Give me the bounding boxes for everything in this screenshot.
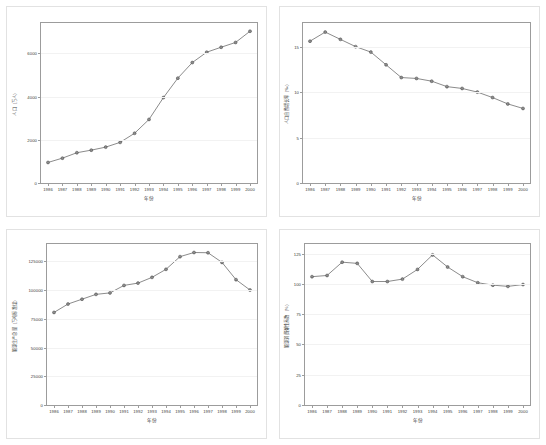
y-tick-mark (44, 376, 47, 377)
x-tick-label: 1987 (322, 409, 332, 414)
x-tick-mark (372, 405, 373, 408)
x-tick-mark (493, 183, 494, 186)
x-tick-mark (432, 183, 433, 186)
x-tick-label: 1997 (202, 187, 212, 192)
data-point-marker (311, 275, 314, 278)
x-tick-mark (250, 183, 251, 186)
y-tick-label: 125 (294, 251, 301, 256)
data-point-marker (123, 284, 126, 287)
x-tick-label: 1986 (49, 409, 59, 414)
x-tick-label: 1996 (457, 187, 467, 192)
x-tick-label: 1987 (58, 187, 68, 192)
x-tick-label: 1999 (231, 187, 241, 192)
x-tick-mark (250, 405, 251, 408)
data-point-marker (249, 30, 252, 33)
gridline (47, 261, 257, 262)
gridline (305, 314, 530, 315)
x-tick-mark (192, 183, 193, 186)
x-tick-mark (124, 405, 125, 408)
x-tick-mark (163, 183, 164, 186)
y-tick-label: 25 (296, 372, 301, 377)
x-tick-label: 1995 (443, 409, 453, 414)
x-tick-mark (149, 183, 150, 186)
data-point-marker (324, 31, 327, 34)
x-tick-mark (152, 405, 153, 408)
x-tick-mark (493, 405, 494, 408)
data-point-marker (148, 118, 151, 121)
x-tick-label: 2000 (518, 409, 528, 414)
y-axis-title-text: 人口（万人） (11, 90, 17, 115)
x-tick-label: 1986 (43, 187, 53, 192)
data-point-marker (207, 251, 210, 254)
gridline (305, 284, 530, 285)
data-point-marker (356, 262, 359, 265)
x-tick-mark (402, 405, 403, 408)
x-tick-label: 1996 (189, 409, 199, 414)
x-tick-label: 1999 (231, 409, 241, 414)
gridline (41, 53, 257, 54)
x-tick-label: 1999 (503, 409, 513, 414)
x-tick-label: 1997 (473, 409, 483, 414)
gridline (303, 47, 530, 48)
y-tick-mark (44, 319, 47, 320)
x-tick-label: 1998 (488, 187, 498, 192)
x-tick-mark (77, 183, 78, 186)
y-tick-mark (300, 92, 303, 93)
data-point-marker (491, 96, 494, 99)
x-tick-label: 1986 (305, 187, 315, 192)
x-tick-mark (508, 405, 509, 408)
x-tick-label: 1995 (442, 187, 452, 192)
data-point-marker (176, 77, 179, 80)
data-point-marker (506, 102, 509, 105)
data-point-marker (415, 77, 418, 80)
y-axis-title-3: 能源生产总量（万吨标准煤） (11, 270, 17, 325)
y-tick-label: 0 (41, 403, 43, 408)
data-point-marker (165, 268, 168, 271)
x-tick-label: 1998 (216, 187, 226, 192)
data-point-marker (339, 38, 342, 41)
data-point-marker (341, 261, 344, 264)
data-point-marker (151, 276, 154, 279)
x-tick-mark (236, 183, 237, 186)
data-point-marker (235, 278, 238, 281)
x-tick-mark (433, 405, 434, 408)
x-tick-label: 1992 (130, 187, 140, 192)
x-tick-mark (356, 183, 357, 186)
x-tick-label: 1987 (63, 409, 73, 414)
x-tick-mark (48, 183, 49, 186)
gridline (47, 319, 257, 320)
data-point-marker (81, 298, 84, 301)
x-tick-label: 1994 (427, 187, 437, 192)
x-tick-mark (387, 405, 388, 408)
y-axis-title-1: 人口（万人） (11, 78, 17, 103)
chart-panel-1: 人口（万人） 年份 020004000600019861987198819891… (0, 0, 273, 223)
y-tick-label: 2000 (27, 137, 37, 142)
data-point-marker (133, 132, 136, 135)
x-tick-label: 1991 (381, 187, 391, 192)
y-tick-label: 25000 (31, 374, 43, 379)
x-tick-mark (463, 405, 464, 408)
y-axis-title-text: 人口自然增长率（‰） (283, 82, 289, 124)
x-tick-label: 1992 (397, 187, 407, 192)
x-tick-label: 1993 (413, 409, 423, 414)
chart-panel-3: 能源生产总量（万吨标准煤） 年份 02500050000750001000001… (0, 223, 273, 445)
gridline (47, 376, 257, 377)
x-tick-label: 1990 (368, 409, 378, 414)
x-tick-mark (236, 405, 237, 408)
x-tick-mark (417, 183, 418, 186)
x-tick-mark (68, 405, 69, 408)
data-point-marker (446, 266, 449, 269)
x-tick-label: 1992 (133, 409, 143, 414)
data-point-marker (137, 282, 140, 285)
x-tick-label: 1988 (336, 187, 346, 192)
x-tick-label: 1987 (320, 187, 330, 192)
data-point-marker (179, 255, 182, 258)
x-tick-mark (357, 405, 358, 408)
y-tick-mark (302, 254, 305, 255)
gridline (47, 290, 257, 291)
x-tick-label: 1989 (352, 409, 362, 414)
x-tick-mark (386, 183, 387, 186)
x-tick-label: 1991 (115, 187, 125, 192)
x-tick-mark (478, 405, 479, 408)
x-tick-mark (91, 183, 92, 186)
